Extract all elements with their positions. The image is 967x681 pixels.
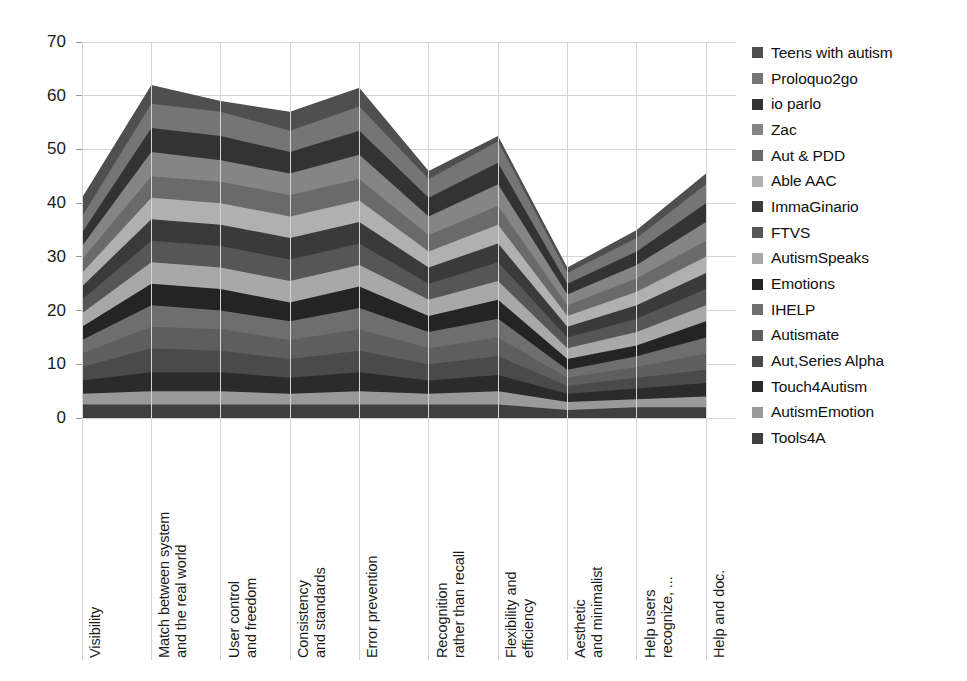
legend-item-label: AutismSpeaks bbox=[771, 249, 869, 267]
legend-item[interactable]: IHELP bbox=[752, 297, 964, 323]
area-series-group bbox=[82, 85, 706, 418]
legend-item[interactable]: FTVS bbox=[752, 220, 964, 246]
y-axis-tick-label: 70 bbox=[24, 33, 66, 50]
legend-item[interactable]: io parlo bbox=[752, 91, 964, 117]
legend-item[interactable]: Teens with autism bbox=[752, 40, 964, 66]
legend-item-label: Touch4Autism bbox=[771, 378, 867, 396]
legend: Teens with autismProloquo2goio parloZacA… bbox=[752, 40, 964, 451]
x-axis-category-label: Recognition rather than recall bbox=[434, 551, 467, 658]
x-axis-category-label: Help and doc. bbox=[711, 570, 728, 658]
legend-swatch-icon bbox=[752, 47, 763, 58]
legend-swatch-icon bbox=[752, 227, 763, 238]
x-axis-category-label: Error prevention bbox=[364, 556, 381, 658]
legend-swatch-icon bbox=[752, 381, 763, 392]
x-axis-category-label: Help users recognize, ... bbox=[642, 576, 675, 658]
legend-item[interactable]: Zac bbox=[752, 117, 964, 143]
legend-swatch-icon bbox=[752, 356, 763, 367]
y-axis-tick-label: 60 bbox=[24, 87, 66, 104]
legend-item-label: Zac bbox=[771, 121, 797, 139]
legend-item-label: Emotions bbox=[771, 275, 835, 293]
legend-item[interactable]: Emotions bbox=[752, 271, 964, 297]
legend-item[interactable]: Aut & PDD bbox=[752, 143, 964, 169]
x-axis-category-label: User control and freedom bbox=[226, 578, 259, 658]
legend-item[interactable]: Aut,Series Alpha bbox=[752, 348, 964, 374]
legend-item-label: Autismate bbox=[771, 326, 839, 344]
legend-swatch-icon bbox=[752, 124, 763, 135]
legend-item-label: AutismEmotion bbox=[771, 403, 874, 421]
legend-swatch-icon bbox=[752, 176, 763, 187]
legend-item-label: Proloquo2go bbox=[771, 70, 858, 88]
y-axis-tick-label: 10 bbox=[24, 355, 66, 372]
y-axis-tick-label: 30 bbox=[24, 248, 66, 265]
axis-ticks bbox=[76, 42, 82, 418]
legend-item[interactable]: Touch4Autism bbox=[752, 374, 964, 400]
legend-swatch-icon bbox=[752, 201, 763, 212]
legend-item-label: Able AAC bbox=[771, 172, 837, 190]
x-axis-category-label: Flexibility and efficiency bbox=[503, 572, 536, 658]
legend-item[interactable]: Autismate bbox=[752, 323, 964, 349]
legend-item-label: FTVS bbox=[771, 224, 810, 242]
legend-item-label: io parlo bbox=[771, 95, 821, 113]
x-axis-category-label: Match between system and the real world bbox=[156, 512, 189, 658]
y-axis-tick-label: 0 bbox=[24, 409, 66, 426]
y-axis-tick-label: 50 bbox=[24, 140, 66, 157]
legend-item-label: ImmaGinario bbox=[771, 198, 859, 216]
legend-item-label: Tools4A bbox=[771, 429, 825, 447]
x-axis-category-label: Aesthetic and minimalist bbox=[572, 567, 605, 658]
y-axis-tick-label: 40 bbox=[24, 194, 66, 211]
legend-item-label: Teens with autism bbox=[771, 44, 893, 62]
legend-swatch-icon bbox=[752, 73, 763, 84]
legend-item-label: Aut,Series Alpha bbox=[771, 352, 884, 370]
legend-item-label: IHELP bbox=[771, 301, 815, 319]
legend-swatch-icon bbox=[752, 253, 763, 264]
legend-swatch-icon bbox=[752, 330, 763, 341]
y-axis-tick-label: 20 bbox=[24, 302, 66, 319]
legend-item[interactable]: AutismEmotion bbox=[752, 400, 964, 426]
legend-item[interactable]: Proloquo2go bbox=[752, 66, 964, 92]
legend-swatch-icon bbox=[752, 150, 763, 161]
legend-swatch-icon bbox=[752, 407, 763, 418]
legend-item[interactable]: Tools4A bbox=[752, 425, 964, 451]
stacked-area-chart: 010203040506070 VisibilityMatch between … bbox=[0, 0, 967, 681]
legend-swatch-icon bbox=[752, 279, 763, 290]
x-axis-category-label: Consistency and standards bbox=[295, 567, 328, 658]
legend-item[interactable]: Able AAC bbox=[752, 168, 964, 194]
legend-swatch-icon bbox=[752, 433, 763, 444]
legend-item-label: Aut & PDD bbox=[771, 147, 845, 165]
x-axis-category-label: Visibility bbox=[87, 607, 104, 658]
legend-swatch-icon bbox=[752, 304, 763, 315]
legend-item[interactable]: ImmaGinario bbox=[752, 194, 964, 220]
legend-item[interactable]: AutismSpeaks bbox=[752, 246, 964, 272]
legend-swatch-icon bbox=[752, 99, 763, 110]
